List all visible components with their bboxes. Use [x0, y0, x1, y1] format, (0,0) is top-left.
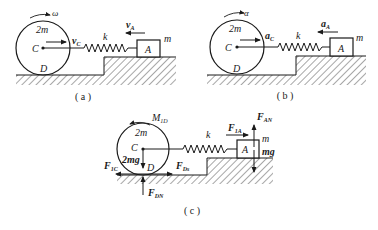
svg-text:k: k: [206, 129, 211, 140]
fds-label: FDs: [175, 160, 190, 172]
vc-label: vC: [72, 35, 81, 47]
aa-label: aA: [321, 18, 330, 30]
svg-text:C: C: [131, 142, 138, 153]
panel-c: M1D 2m C 2mg D F1C FDs FDN k F1A FAN A m…: [103, 111, 275, 217]
caption-b: ( b ): [277, 90, 294, 102]
mechanics-diagram: ω 2m C D vC k vA A m ( a ) α 2m C D aC k…: [0, 0, 378, 230]
svg-text:D: D: [232, 63, 241, 74]
svg-text:k: k: [296, 30, 301, 41]
disk-weight-label: 2mg: [121, 154, 140, 165]
panel-b: α 2m C D aC k aA A m ( b ): [207, 8, 366, 102]
omega-label: ω: [52, 8, 58, 18]
svg-text:2m: 2m: [135, 127, 147, 138]
block-mass-label: m: [164, 33, 171, 44]
f1a-label: F1A: [227, 122, 242, 134]
caption-c: ( c ): [184, 205, 200, 217]
svg-text:C: C: [225, 42, 232, 53]
svg-text:m: m: [356, 32, 363, 43]
rotation-arrow-icon: [30, 14, 50, 18]
svg-text:A: A: [337, 43, 345, 54]
svg-text:m: m: [262, 133, 269, 144]
contact-label: D: [39, 63, 48, 74]
fan-label: FAN: [256, 111, 273, 123]
ac-label: aC: [265, 30, 275, 42]
ground-step-hatch: [104, 57, 176, 85]
svg-text:2m: 2m: [229, 23, 241, 34]
disk-mass-label: 2m: [36, 24, 48, 35]
svg-text:A: A: [241, 144, 249, 155]
angular-accel-arrow-icon: [224, 13, 244, 17]
block-label: A: [144, 44, 152, 55]
f1c-label: F1C: [103, 160, 119, 172]
spring: [180, 145, 237, 153]
spring: [80, 44, 137, 52]
svg-text:D: D: [146, 162, 155, 173]
block-weight-label: mg: [262, 146, 275, 157]
center-label: C: [32, 43, 39, 54]
panel-a: ω 2m C D vC k vA A m ( a ): [16, 8, 176, 103]
spring-label: k: [103, 31, 108, 42]
ground-low-hatch: [16, 75, 104, 85]
spring: [275, 43, 330, 51]
va-label: vA: [126, 19, 134, 31]
alpha-label: α: [244, 8, 249, 18]
moment-label: M1D: [151, 112, 168, 124]
caption-a: ( a ): [75, 91, 91, 103]
fdn-label: FDN: [147, 187, 164, 199]
